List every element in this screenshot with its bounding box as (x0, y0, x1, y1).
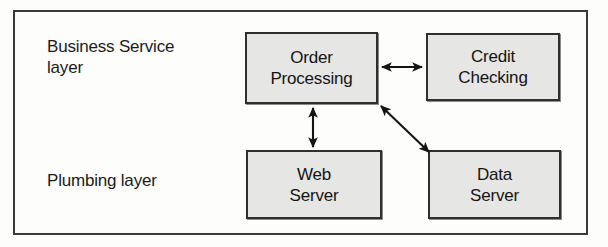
node-credit-checking[interactable]: Credit Checking (426, 33, 560, 101)
node-data-server[interactable]: Data Server (428, 150, 561, 219)
node-order-processing[interactable]: Order Processing (245, 32, 378, 104)
node-web-server[interactable]: Web Server (246, 150, 382, 219)
diagram-canvas: Business Service layer Plumbing layer Or… (0, 0, 608, 247)
layer-label-plumbing: Plumbing layer (47, 170, 157, 191)
layer-label-business-service: Business Service layer (47, 36, 174, 78)
